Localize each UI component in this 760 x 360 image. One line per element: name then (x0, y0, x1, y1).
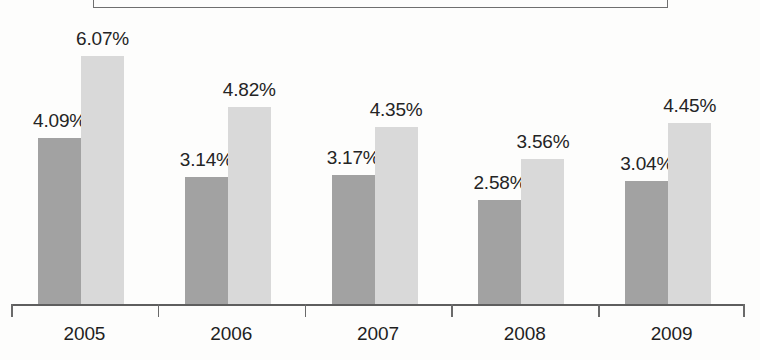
x-axis-line (11, 304, 745, 306)
bar-2007-series-1 (332, 175, 375, 306)
bar-2009-series-2 (668, 123, 711, 306)
x-axis-tick-4 (598, 304, 600, 317)
bar-2008-series-2 (521, 159, 564, 306)
bar-2005-series-2 (81, 56, 124, 306)
bar-2009-series-1 (625, 181, 668, 306)
bar-value-label-2008-series-2: 3.56% (503, 132, 583, 151)
x-axis-label-2005: 2005 (34, 324, 134, 343)
bar-value-label-2007-series-2: 4.35% (356, 100, 436, 119)
plot-area: 4.09%6.07%3.14%4.82%3.17%4.35%2.58%3.56%… (0, 0, 760, 306)
x-axis-tick-1 (158, 304, 160, 317)
x-axis-label-2009: 2009 (622, 324, 722, 343)
x-axis-label-2006: 2006 (181, 324, 281, 343)
bar-2007-series-2 (375, 127, 418, 306)
x-axis-label-2007: 2007 (328, 324, 428, 343)
x-axis-tick-0 (11, 304, 13, 317)
bar-value-label-2005-series-2: 6.07% (63, 29, 143, 48)
x-axis-tick-2 (305, 304, 307, 317)
x-axis-tick-5 (743, 304, 745, 317)
bar-value-label-2006-series-2: 4.82% (209, 80, 289, 99)
bar-value-label-2009-series-2: 4.45% (650, 96, 730, 115)
x-axis-label-2008: 2008 (475, 324, 575, 343)
x-axis-tick-3 (451, 304, 453, 317)
bar-2006-series-1 (185, 177, 228, 306)
bar-2005-series-1 (38, 138, 81, 306)
bar-chart: 4.09%6.07%3.14%4.82%3.17%4.35%2.58%3.56%… (0, 0, 760, 360)
bar-2008-series-1 (478, 200, 521, 306)
bar-2006-series-2 (228, 107, 271, 306)
